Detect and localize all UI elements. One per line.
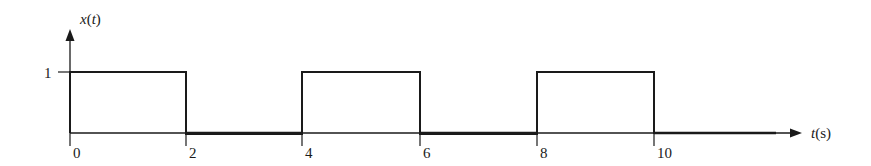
y-tick-label-1: 1 — [44, 65, 52, 81]
x-tick-label-4: 4 — [305, 145, 313, 161]
x-tick-label-6: 6 — [423, 145, 431, 161]
x-tick-label-8: 8 — [540, 145, 548, 161]
x-axis-label: t(s) — [811, 125, 831, 142]
y-axis-label: x(t) — [79, 11, 101, 28]
x-ticks — [70, 133, 654, 146]
signal-waveform — [70, 72, 654, 134]
x-tick-label-2: 2 — [189, 145, 197, 161]
x-tick-label-10: 10 — [657, 145, 672, 161]
y-axis-arrow-icon — [66, 29, 75, 41]
x-tick-label-0: 0 — [73, 145, 81, 161]
x-axis-arrow-icon — [790, 129, 802, 138]
pulse-train-chart: x(t) 1 0 2 4 6 8 10 t(s) — [0, 0, 871, 166]
